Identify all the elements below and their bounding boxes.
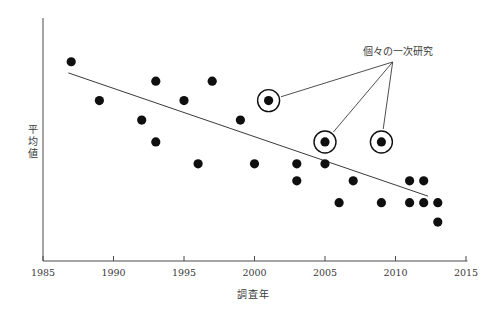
data-point — [320, 137, 329, 146]
data-point — [179, 96, 188, 105]
annotation-pointer-line — [281, 62, 393, 97]
x-tick-label-2000: 2000 — [242, 267, 266, 278]
data-point — [292, 159, 301, 168]
data-point — [320, 159, 329, 168]
data-point — [151, 77, 160, 86]
data-point — [405, 176, 414, 185]
data-point — [194, 159, 203, 168]
data-point — [405, 198, 414, 207]
data-point — [95, 96, 104, 105]
data-point — [335, 198, 344, 207]
annotation-label: 個々の一次研究 — [363, 43, 433, 58]
y-axis-label: 平均値 — [26, 124, 36, 160]
data-point — [236, 115, 245, 124]
data-point — [419, 176, 428, 185]
x-axis-label: 調査年 — [237, 286, 270, 301]
scatter-plot-figure: 平均値 調査年 個々の一次研究 198519901995200020052010… — [0, 0, 500, 315]
x-tick-label-1995: 1995 — [172, 267, 196, 278]
x-tick-label-1985: 1985 — [31, 267, 55, 278]
data-point — [433, 198, 442, 207]
x-tick-label-1990: 1990 — [101, 267, 125, 278]
data-point — [67, 57, 76, 66]
data-point — [264, 96, 273, 105]
annotation-pointer-line — [333, 62, 392, 132]
x-tick-label-2015: 2015 — [454, 267, 478, 278]
data-point — [151, 137, 160, 146]
data-point — [137, 115, 146, 124]
data-point — [208, 77, 217, 86]
x-tick-label-2010: 2010 — [383, 267, 407, 278]
data-point — [250, 159, 259, 168]
data-point — [377, 137, 386, 146]
data-point — [419, 198, 428, 207]
data-point — [349, 176, 358, 185]
x-tick-label-2005: 2005 — [313, 267, 337, 278]
data-point — [377, 198, 386, 207]
data-point — [433, 218, 442, 227]
data-point — [292, 176, 301, 185]
